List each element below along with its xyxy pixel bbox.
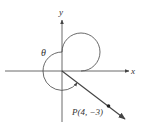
angle-diagram: y x θ P(4, −3) xyxy=(0,0,141,129)
x-axis-label: x xyxy=(130,66,135,76)
y-axis-label: y xyxy=(58,7,63,17)
angle-arc xyxy=(43,33,100,90)
point-p-label: P(4, −3) xyxy=(71,107,103,117)
point-p-dot xyxy=(107,104,111,108)
theta-label: θ xyxy=(41,47,46,58)
